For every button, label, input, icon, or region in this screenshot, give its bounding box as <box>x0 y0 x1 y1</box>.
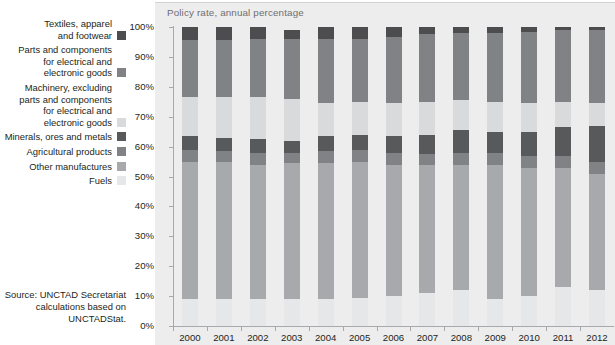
bar-segment <box>386 165 402 297</box>
bar-2005[interactable] <box>352 27 368 326</box>
bar-segment <box>250 153 266 165</box>
x-tick <box>309 327 310 331</box>
bar-segment <box>419 154 435 164</box>
bar-2008[interactable] <box>453 27 469 326</box>
bar-2000[interactable] <box>182 27 198 326</box>
y-tick <box>169 57 173 58</box>
bar-2003[interactable] <box>284 27 300 326</box>
bar-segment <box>318 103 334 136</box>
bar-segment <box>521 103 537 131</box>
y-tick-label: 70% <box>108 111 154 122</box>
legend-swatch-textiles <box>117 31 126 40</box>
bar-segment <box>284 141 300 153</box>
bar-segment <box>386 37 402 103</box>
bar-segment <box>182 40 198 97</box>
y-tick <box>169 296 173 297</box>
y-tick-label: 90% <box>108 51 154 62</box>
bar-2004[interactable] <box>318 27 334 326</box>
bar-2002[interactable] <box>250 27 266 326</box>
legend-label: Textiles, apparel and footwear <box>44 18 112 41</box>
chart-legend: Textiles, apparel and footwear Parts and… <box>0 18 126 190</box>
bar-segment <box>521 296 537 326</box>
bar-2011[interactable] <box>555 27 571 326</box>
bar-segment <box>589 126 605 162</box>
bar-segment <box>284 153 300 163</box>
legend-label: Agricultural products <box>27 146 112 158</box>
y-tick-label: 10% <box>108 290 154 301</box>
bar-segment <box>216 40 232 97</box>
x-tick-label: 2012 <box>577 332 615 343</box>
x-tick <box>580 327 581 331</box>
bar-segment <box>352 102 368 135</box>
bar-segment <box>419 293 435 326</box>
legend-swatch-other-manufactures <box>117 162 126 171</box>
chart-panel: Policy rate, annual percentage 0%10%20%3… <box>155 2 615 345</box>
x-tick <box>478 327 479 331</box>
bar-segment <box>521 32 537 104</box>
y-tick <box>169 87 173 88</box>
bar-segment <box>386 153 402 165</box>
y-tick-label: 50% <box>108 171 154 182</box>
bar-segment <box>453 165 469 291</box>
bar-segment <box>555 168 571 288</box>
bar-segment <box>555 102 571 127</box>
bar-segment <box>352 298 368 326</box>
bar-segment <box>216 151 232 161</box>
bar-segment <box>589 103 605 125</box>
bar-segment <box>352 135 368 150</box>
bar-segment <box>216 299 232 326</box>
bar-segment <box>453 153 469 165</box>
x-axis-line <box>173 326 614 327</box>
bar-segment <box>318 151 334 163</box>
bar-2010[interactable] <box>521 27 537 326</box>
y-tick <box>169 177 173 178</box>
y-tick-label: 80% <box>108 81 154 92</box>
bar-segment <box>589 290 605 326</box>
x-tick <box>377 327 378 331</box>
bar-segment <box>386 103 402 136</box>
y-tick <box>169 147 173 148</box>
bar-2001[interactable] <box>216 27 232 326</box>
bar-segment <box>521 132 537 156</box>
bar-segment <box>555 287 571 326</box>
bar-segment <box>521 168 537 297</box>
bar-2012[interactable] <box>589 27 605 326</box>
bar-segment <box>250 39 266 97</box>
bar-2007[interactable] <box>419 27 435 326</box>
bar-segment <box>216 138 232 151</box>
bar-segment <box>419 27 435 34</box>
bar-segment <box>386 296 402 326</box>
bar-segment <box>250 27 266 39</box>
bar-segment <box>487 132 503 153</box>
x-tick <box>173 327 174 331</box>
bar-segment <box>419 102 435 135</box>
bar-segment <box>318 136 334 151</box>
x-tick <box>410 327 411 331</box>
bar-segment <box>318 163 334 299</box>
bar-segment <box>555 127 571 155</box>
bar-segment <box>182 299 198 326</box>
bar-segment <box>589 27 605 30</box>
bar-2009[interactable] <box>487 27 503 326</box>
bar-segment <box>216 162 232 300</box>
bar-2006[interactable] <box>386 27 402 326</box>
bar-segment <box>352 162 368 298</box>
x-tick <box>512 327 513 331</box>
bar-segment <box>453 290 469 326</box>
bar-segment <box>250 165 266 300</box>
bar-segment <box>487 165 503 300</box>
bar-segment <box>352 27 368 39</box>
y-tick-label: 20% <box>108 260 154 271</box>
x-tick <box>343 327 344 331</box>
y-tick <box>169 206 173 207</box>
bar-segment <box>182 162 198 300</box>
bar-segment <box>453 27 469 33</box>
bar-segment <box>453 33 469 100</box>
bar-segment <box>284 39 300 99</box>
y-tick-label: 40% <box>108 200 154 211</box>
bar-segment <box>352 39 368 102</box>
bar-segment <box>555 30 571 102</box>
bar-segment <box>284 299 300 326</box>
bar-segment <box>487 33 503 102</box>
legend-label: Other manufactures <box>29 161 112 173</box>
